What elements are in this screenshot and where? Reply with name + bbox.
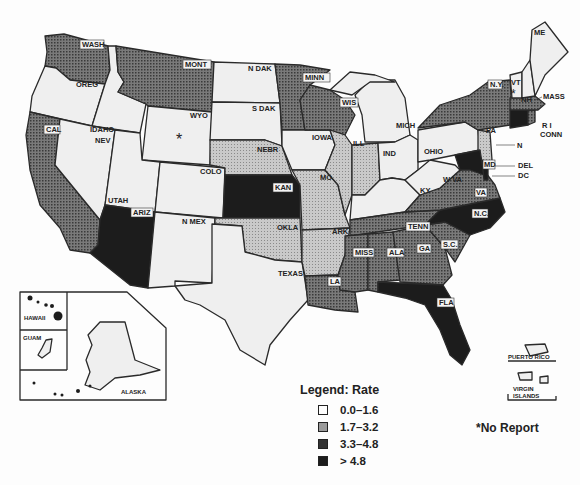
- svg-text:WYO: WYO: [190, 111, 208, 120]
- svg-text:R I: R I: [542, 121, 552, 130]
- svg-text:TENN: TENN: [408, 222, 428, 231]
- legend-swatch-3: [318, 456, 328, 466]
- legend-swatch-1: [318, 422, 328, 432]
- svg-text:GUAM: GUAM: [23, 335, 41, 341]
- svg-text:HAWAII: HAWAII: [24, 315, 46, 321]
- svg-text:ISLANDS: ISLANDS: [513, 393, 539, 399]
- svg-text:CAL: CAL: [46, 125, 62, 134]
- svg-text:ARK: ARK: [332, 227, 349, 236]
- svg-text:DC: DC: [518, 171, 529, 180]
- svg-text:KY: KY: [420, 186, 430, 195]
- svg-text:DEL: DEL: [518, 161, 533, 170]
- svg-text:W VA: W VA: [443, 175, 463, 184]
- svg-text:FLA: FLA: [439, 298, 454, 307]
- svg-text:N.C.: N.C.: [474, 209, 489, 218]
- svg-text:GA: GA: [419, 244, 431, 253]
- svg-text:N.Y.: N.Y.: [490, 80, 504, 89]
- state-fla: [378, 282, 470, 365]
- svg-text:VT: VT: [511, 78, 521, 87]
- svg-text:VIRGIN: VIRGIN: [513, 386, 534, 392]
- svg-text:ILL: ILL: [353, 139, 365, 148]
- svg-text:OHIO: OHIO: [424, 147, 443, 156]
- svg-text:PUERTO RICO: PUERTO RICO: [508, 354, 550, 360]
- svg-text:MASS: MASS: [543, 92, 565, 101]
- svg-text:UTAH: UTAH: [108, 196, 128, 205]
- svg-text:ALA: ALA: [389, 248, 405, 257]
- us-map: WASH OREG CAL IDAHO NEV MONT WYO * UTAH …: [0, 0, 580, 485]
- svg-text:MICH: MICH: [396, 121, 415, 130]
- svg-text:IND: IND: [383, 149, 397, 158]
- no-report-star-wyo: *: [176, 131, 182, 148]
- svg-text:NH: NH: [521, 95, 532, 104]
- legend-item: 0.0–1.6: [318, 401, 379, 418]
- virgin-islands-shape: [518, 372, 548, 383]
- svg-text:ARIZ: ARIZ: [133, 208, 151, 217]
- svg-text:ME: ME: [534, 28, 545, 37]
- state-kan: [223, 175, 300, 218]
- svg-text:MINN: MINN: [305, 73, 324, 82]
- svg-text:S.C.: S.C.: [443, 240, 458, 249]
- svg-text:IDAHO: IDAHO: [90, 125, 114, 134]
- svg-text:WIS: WIS: [342, 98, 356, 107]
- svg-text:WASH: WASH: [82, 40, 105, 49]
- svg-text:N: N: [517, 141, 522, 150]
- state-conn: [510, 110, 528, 128]
- svg-text:IOWA: IOWA: [312, 133, 333, 142]
- svg-text:PA: PA: [486, 126, 496, 135]
- svg-text:S DAK: S DAK: [252, 104, 276, 113]
- legend-swatch-2: [318, 439, 328, 449]
- svg-text:MD: MD: [484, 160, 496, 169]
- svg-text:CONN: CONN: [540, 130, 562, 139]
- svg-text:NEBR: NEBR: [257, 145, 279, 154]
- svg-text:COLO: COLO: [200, 167, 222, 176]
- svg-text:N MEX: N MEX: [182, 217, 206, 226]
- map-legend: Legend: Rate 0.0–1.6 1.7–3.2 3.3–4.8 > 4…: [300, 383, 379, 469]
- svg-text:OREG: OREG: [76, 80, 98, 89]
- svg-text:MONT: MONT: [185, 60, 207, 69]
- svg-text:OKLA: OKLA: [277, 223, 299, 232]
- svg-text:MO: MO: [320, 173, 332, 182]
- svg-text:LA: LA: [330, 277, 341, 286]
- map-figure: WASH OREG CAL IDAHO NEV MONT WYO * UTAH …: [0, 0, 580, 485]
- svg-text:N DAK: N DAK: [248, 64, 272, 73]
- svg-text:ALASKA: ALASKA: [121, 389, 147, 395]
- legend-swatch-0: [318, 405, 328, 415]
- legend-item: > 4.8: [318, 452, 379, 469]
- no-report-star-vt: *: [511, 87, 516, 101]
- svg-text:MISS: MISS: [355, 248, 373, 257]
- svg-text:NEV: NEV: [95, 136, 110, 145]
- legend-item: 1.7–3.2: [318, 418, 379, 435]
- svg-text:TEXAS: TEXAS: [278, 269, 303, 278]
- no-report-note: *No Report: [476, 421, 539, 435]
- state-mich: [355, 80, 410, 142]
- legend-item: 3.3–4.8: [318, 435, 379, 452]
- svg-text:KAN: KAN: [275, 183, 291, 192]
- state-ri: [528, 110, 535, 125]
- svg-text:VA: VA: [476, 188, 486, 197]
- legend-title: Legend: Rate: [300, 383, 379, 397]
